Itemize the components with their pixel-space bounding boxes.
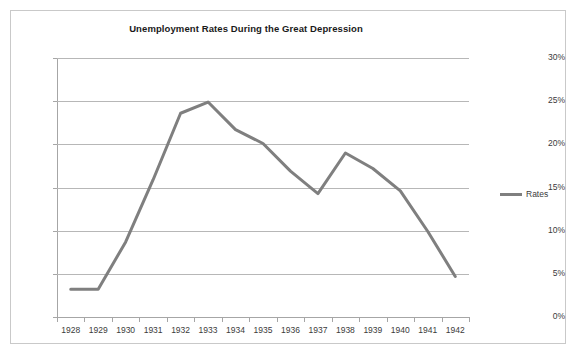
x-tick-1 [84, 318, 85, 322]
y-axis-label-0%: 0% [531, 312, 565, 321]
x-axis-label-1938: 1938 [332, 325, 359, 335]
chart-title: Unemployment Rates During the Great Depr… [11, 23, 481, 34]
x-axis-label-1941: 1941 [414, 325, 441, 335]
x-tick-14 [442, 318, 443, 322]
legend-label-rates: Rates [526, 189, 548, 199]
x-tick-0 [57, 318, 58, 322]
x-tick-4 [167, 318, 168, 322]
x-axis-label-1937: 1937 [304, 325, 331, 335]
y-axis-label-20%: 20% [531, 139, 565, 148]
x-axis-label-1942: 1942 [442, 325, 469, 335]
x-axis-label-1940: 1940 [387, 325, 414, 335]
x-axis-label-1939: 1939 [359, 325, 386, 335]
y-axis-label-10%: 10% [531, 226, 565, 235]
x-tick-5 [194, 318, 195, 322]
x-axis-label-1930: 1930 [112, 325, 139, 335]
x-tick-10 [332, 318, 333, 322]
x-tick-12 [387, 318, 388, 322]
x-axis-label-1933: 1933 [194, 325, 221, 335]
plot-area [57, 58, 469, 317]
x-axis-label-1929: 1929 [84, 325, 111, 335]
x-tick-7 [249, 318, 250, 322]
y-axis-label-30%: 30% [531, 53, 565, 62]
x-axis-label-1935: 1935 [249, 325, 276, 335]
legend-swatch-rates [500, 193, 522, 196]
x-tick-15 [469, 318, 470, 322]
x-axis-label-1928: 1928 [57, 325, 84, 335]
x-axis-label-1936: 1936 [277, 325, 304, 335]
x-axis-line [57, 317, 470, 318]
x-tick-3 [139, 318, 140, 322]
series-line-rates [57, 58, 469, 317]
y-axis-label-25%: 25% [531, 96, 565, 105]
x-axis-label-1932: 1932 [167, 325, 194, 335]
x-axis-label-1934: 1934 [222, 325, 249, 335]
x-tick-13 [414, 318, 415, 322]
x-tick-11 [359, 318, 360, 322]
x-tick-8 [277, 318, 278, 322]
x-axis-label-1931: 1931 [139, 325, 166, 335]
x-tick-9 [304, 318, 305, 322]
x-tick-2 [112, 318, 113, 322]
x-tick-6 [222, 318, 223, 322]
chart-frame: Unemployment Rates During the Great Depr… [10, 10, 566, 344]
chart-legend: Rates [500, 189, 548, 199]
y-axis-label-5%: 5% [531, 269, 565, 278]
